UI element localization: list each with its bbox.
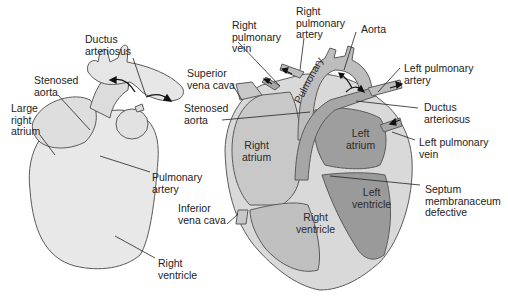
label-stenosed-aorta-right: Stenosed aorta [184, 103, 228, 126]
heart-diagram: Ductus arteriosus Stenosed aorta Large r… [0, 0, 508, 296]
label-large-right-atrium: Large right atrium [11, 103, 40, 138]
label-right-pulmonary-vein: Right pulmonary vein [232, 20, 281, 55]
label-left-atrium: Left atrium [346, 128, 375, 151]
label-ductus-arteriosus-left: Ductus arteriosus [85, 34, 131, 57]
label-aorta: Aorta [361, 24, 386, 36]
label-pulmonary-artery: Pulmonary artery [152, 172, 202, 195]
right-heart-inferior-vena-cava [236, 210, 248, 224]
label-septum-membranaceum-defective: Septum membranaceum defective [425, 184, 501, 219]
label-ductus-arteriosus-right: Ductus arteriosus [424, 102, 470, 125]
label-superior-vena-cava: Superior vena cava [187, 68, 235, 91]
label-right-ventricle-right: Right ventricle [296, 212, 335, 235]
label-inferior-vena-cava: Inferior vena cava [178, 203, 226, 226]
right-heart-illustration [225, 46, 412, 290]
label-left-pulmonary-artery: Left pulmonary artery [404, 63, 473, 86]
label-right-ventricle-left: Right ventricle [158, 258, 197, 281]
label-left-ventricle: Left ventricle [352, 187, 391, 210]
label-stenosed-aorta-left: Stenosed aorta [34, 75, 78, 98]
left-heart-pulmonary-bulge [116, 109, 148, 139]
label-right-pulmonary-artery: Right pulmonary artery [296, 6, 345, 41]
left-heart-right-atrium [32, 97, 96, 148]
label-left-pulmonary-vein: Left pulmonary vein [419, 137, 488, 160]
label-right-atrium: Right atrium [242, 140, 271, 163]
left-heart-vessel-stub [135, 104, 144, 112]
